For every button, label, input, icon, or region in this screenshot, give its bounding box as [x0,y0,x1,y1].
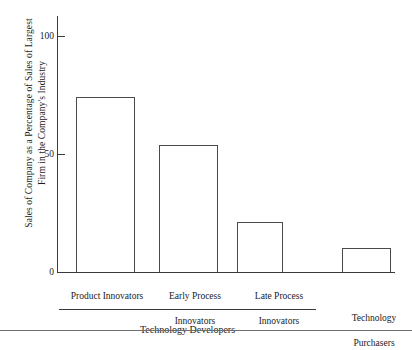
y-tick-label-100: 100 [14,31,54,41]
category-label-line-1: Technology [336,312,412,325]
bar-technology-purchasers [342,248,391,272]
y-tick-label-50: 50 [14,149,54,159]
group-label-text: Technology Developers [140,324,235,335]
category-label-line-1: Late Process [235,290,323,303]
bar-early-process-innovators [159,145,218,272]
group-label-technology-developers: Technology Developers [59,311,316,336]
category-label-line-2: Purchasers [336,337,412,350]
bar-late-process-innovators [237,222,283,272]
category-label-technology-purchasers: Technology Purchasers [336,299,412,350]
y-tick-mark-50 [58,154,65,155]
bar-product-innovators [76,97,135,272]
category-label-line-1: Product Innovators [52,290,162,303]
figure-bottom-rule [0,330,412,331]
category-label-line-1: Early Process [150,290,240,303]
y-axis-line [57,16,58,273]
y-tick-mark-100 [58,36,65,37]
y-tick-label-0: 0 [14,267,54,277]
